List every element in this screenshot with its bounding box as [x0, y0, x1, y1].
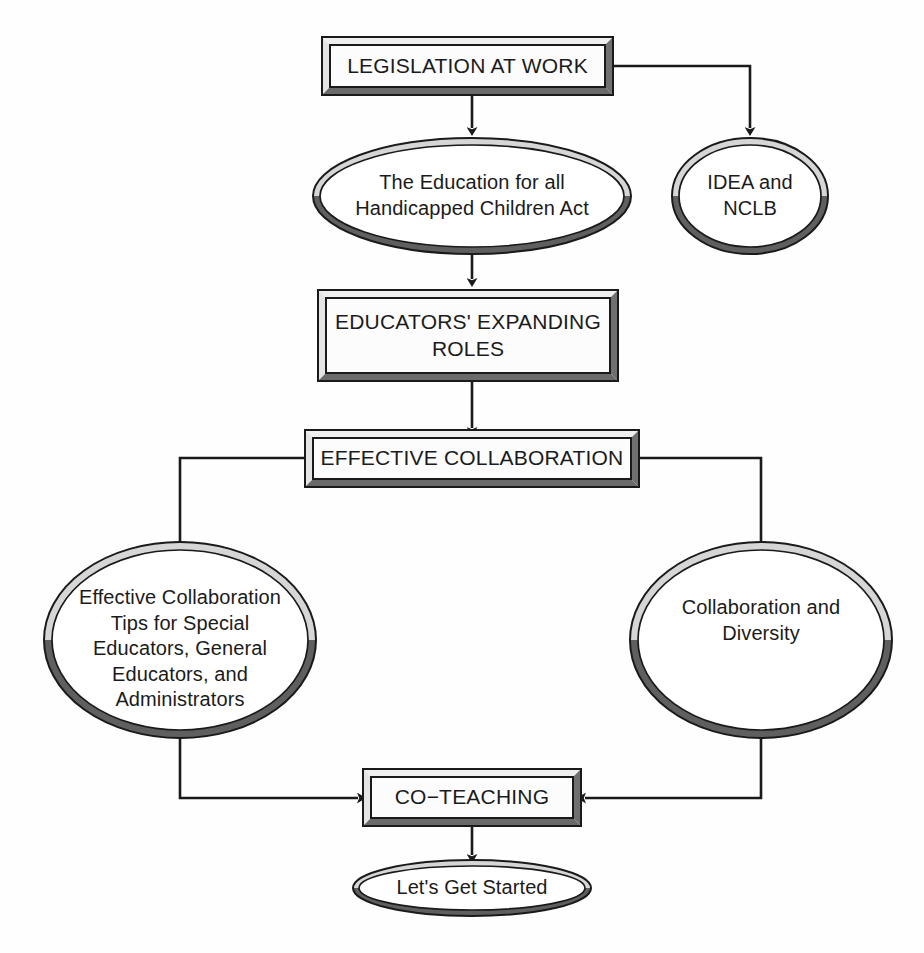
edge-collaboration-tips-to-co-teaching — [180, 737, 358, 798]
node-idea-nclb-shape[interactable] — [672, 138, 828, 254]
node-co-teaching-shape[interactable] — [363, 769, 581, 826]
edge-legislation-to-idea-nclb — [613, 66, 750, 128]
edge-collaboration-diversity-to-co-teaching — [585, 737, 761, 798]
node-education-act-shape[interactable] — [313, 138, 631, 254]
edge-effective-collaboration-to-collaboration-diversity — [639, 458, 761, 542]
node-educators-roles-shape[interactable] — [318, 290, 618, 381]
flowchart-graphics — [0, 0, 924, 953]
node-effective-collaboration-shape[interactable] — [305, 430, 639, 487]
node-legislation-at-work-shape[interactable] — [322, 37, 613, 95]
node-lets-get-started-shape[interactable] — [353, 860, 591, 916]
flowchart-canvas: LEGISLATION AT WORK The Education for al… — [0, 0, 924, 953]
node-collaboration-tips-shape[interactable] — [44, 542, 316, 738]
edge-effective-collaboration-to-collaboration-tips — [180, 458, 305, 542]
node-collaboration-diversity-shape[interactable] — [630, 542, 892, 738]
